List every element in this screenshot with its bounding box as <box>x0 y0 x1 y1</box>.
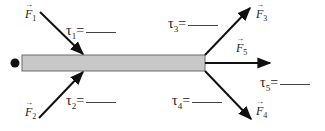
torque-answer-blank-2[interactable] <box>86 102 116 103</box>
torque-answer-blank-3[interactable] <box>188 25 218 26</box>
torque-answer-blank-1[interactable] <box>86 32 116 33</box>
torque-label-3: τ3= <box>168 17 218 34</box>
torque-answer-blank-5[interactable] <box>280 84 310 85</box>
rod <box>22 55 205 71</box>
pivot-point <box>11 59 20 68</box>
torque-label-5: τ5= <box>260 76 310 93</box>
label-f4: F4 <box>256 105 267 120</box>
torque-label-2: τ2= <box>66 94 116 111</box>
torque-label-4: τ4= <box>172 94 222 111</box>
label-f5: F5 <box>236 42 247 57</box>
torque-answer-blank-4[interactable] <box>192 102 222 103</box>
label-f1: F1 <box>25 8 36 23</box>
torque-label-1: τ1= <box>66 24 116 41</box>
torque-diagram <box>0 0 325 131</box>
label-f3: F3 <box>256 8 267 23</box>
label-f2: F2 <box>25 106 36 121</box>
